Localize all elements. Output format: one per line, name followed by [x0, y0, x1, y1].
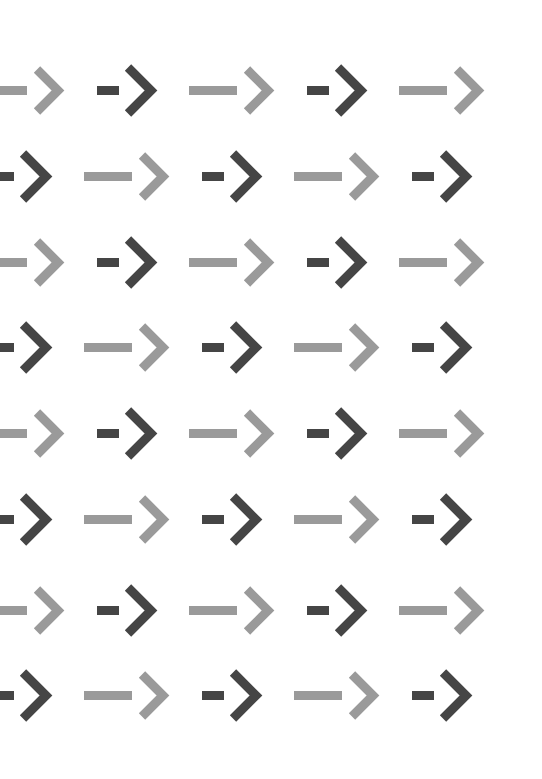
- arrow-shaft: [412, 172, 434, 181]
- arrow-head: [443, 324, 466, 370]
- arrow-shaft: [0, 343, 14, 352]
- arrow-right-icon: [189, 408, 277, 459]
- arrow-right-icon: [412, 320, 475, 375]
- arrow-shaft: [307, 86, 329, 95]
- arrow-right-icon: [412, 149, 475, 204]
- arrow-shaft: [412, 515, 434, 524]
- arrow-shaft: [84, 343, 132, 352]
- arrow-shaft: [0, 691, 14, 700]
- arrow-head: [142, 674, 163, 716]
- arrow-head: [142, 498, 163, 540]
- arrow-pattern-canvas: [0, 0, 542, 779]
- arrow-head: [128, 587, 151, 633]
- arrow-right-icon: [202, 320, 265, 375]
- arrow-right-icon: [84, 494, 172, 545]
- arrow-right-icon: [294, 151, 382, 202]
- arrow-shaft: [0, 86, 27, 95]
- arrow-head: [247, 69, 268, 111]
- arrow-head: [37, 589, 58, 631]
- arrow-head: [142, 326, 163, 368]
- arrow-right-icon: [0, 668, 55, 723]
- arrow-right-icon: [97, 235, 160, 290]
- arrow-shaft: [202, 172, 224, 181]
- arrow-shaft: [294, 343, 342, 352]
- arrow-shaft: [294, 691, 342, 700]
- arrow-shaft: [294, 172, 342, 181]
- arrow-head: [233, 496, 256, 542]
- arrow-head: [352, 155, 373, 197]
- arrow-shaft: [0, 515, 14, 524]
- arrow-right-icon: [189, 237, 277, 288]
- arrow-shaft: [399, 429, 447, 438]
- arrow-head: [338, 587, 361, 633]
- arrow-right-icon: [84, 322, 172, 373]
- arrow-shaft: [399, 606, 447, 615]
- arrow-head: [233, 324, 256, 370]
- arrow-right-icon: [399, 237, 487, 288]
- arrow-head: [443, 672, 466, 718]
- arrow-shaft: [189, 86, 237, 95]
- arrow-shaft: [307, 258, 329, 267]
- arrow-shaft: [294, 515, 342, 524]
- arrow-right-icon: [0, 320, 55, 375]
- arrow-head: [457, 241, 478, 283]
- arrow-head: [23, 672, 46, 718]
- arrow-right-icon: [202, 492, 265, 547]
- arrow-head: [128, 239, 151, 285]
- arrow-shaft: [202, 691, 224, 700]
- arrow-head: [457, 69, 478, 111]
- arrow-right-icon: [294, 670, 382, 721]
- arrow-head: [233, 672, 256, 718]
- arrow-head: [338, 67, 361, 113]
- arrow-shaft: [202, 515, 224, 524]
- arrow-shaft: [412, 343, 434, 352]
- arrow-head: [128, 410, 151, 456]
- arrow-right-icon: [399, 65, 487, 116]
- arrow-right-icon: [294, 322, 382, 373]
- arrow-right-icon: [0, 65, 67, 116]
- arrow-head: [233, 153, 256, 199]
- arrow-head: [247, 412, 268, 454]
- arrow-head: [338, 410, 361, 456]
- arrow-head: [352, 498, 373, 540]
- arrow-head: [23, 324, 46, 370]
- arrow-right-icon: [307, 235, 370, 290]
- arrow-shaft: [202, 343, 224, 352]
- arrow-head: [457, 412, 478, 454]
- arrow-shaft: [189, 429, 237, 438]
- arrow-shaft: [189, 606, 237, 615]
- arrow-shaft: [97, 429, 119, 438]
- arrow-head: [128, 67, 151, 113]
- arrow-right-icon: [0, 149, 55, 204]
- arrow-shaft: [97, 86, 119, 95]
- arrow-right-icon: [97, 406, 160, 461]
- arrow-right-icon: [399, 408, 487, 459]
- arrow-head: [338, 239, 361, 285]
- arrow-head: [443, 496, 466, 542]
- arrow-right-icon: [294, 494, 382, 545]
- arrow-right-icon: [0, 408, 67, 459]
- arrow-right-icon: [399, 585, 487, 636]
- arrow-shaft: [97, 258, 119, 267]
- arrow-shaft: [399, 258, 447, 267]
- arrow-shaft: [412, 691, 434, 700]
- arrow-right-icon: [307, 63, 370, 118]
- arrow-right-icon: [412, 668, 475, 723]
- arrow-head: [247, 589, 268, 631]
- arrow-shaft: [399, 86, 447, 95]
- arrow-right-icon: [97, 63, 160, 118]
- arrow-shaft: [84, 172, 132, 181]
- arrow-head: [457, 589, 478, 631]
- arrow-head: [352, 326, 373, 368]
- arrow-right-icon: [307, 583, 370, 638]
- arrow-head: [37, 241, 58, 283]
- arrow-right-icon: [0, 237, 67, 288]
- arrow-right-icon: [84, 670, 172, 721]
- arrow-head: [23, 153, 46, 199]
- arrow-shaft: [0, 258, 27, 267]
- arrow-right-icon: [97, 583, 160, 638]
- arrow-shaft: [0, 429, 27, 438]
- arrow-right-icon: [84, 151, 172, 202]
- arrow-right-icon: [307, 406, 370, 461]
- arrow-head: [37, 412, 58, 454]
